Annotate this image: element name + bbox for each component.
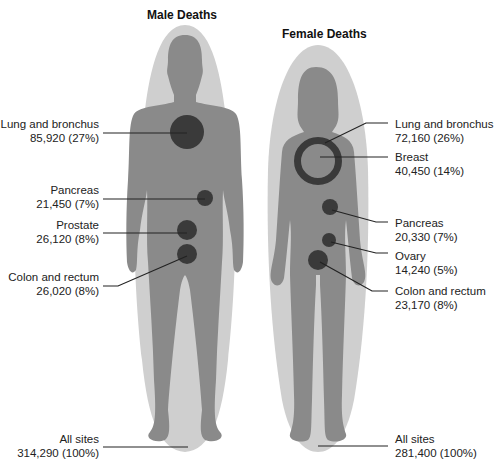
female-label-lung: Lung and bronchus 72,160 (26%): [395, 117, 493, 145]
site-value: 85,920 (27%): [1, 131, 99, 145]
female-label-pancreas: Pancreas 20,330 (7%): [395, 216, 458, 244]
site-name: Breast: [395, 150, 464, 164]
female-label-all-sites: All sites 281,400 (100%): [395, 432, 477, 459]
site-value: 314,290 (100%): [17, 446, 99, 459]
site-name: Colon and rectum: [395, 284, 486, 298]
site-value: 40,450 (14%): [395, 164, 464, 178]
male-lung-organ: [170, 115, 204, 149]
site-value: 26,020 (8%): [8, 284, 99, 298]
male-colon-organ: [177, 244, 197, 264]
female-deaths-title: Female Deaths: [282, 27, 367, 41]
site-name: Pancreas: [395, 216, 458, 230]
female-label-colon: Colon and rectum 23,170 (8%): [395, 284, 486, 312]
male-figure: [103, 25, 244, 452]
male-prostate-organ: [177, 220, 197, 240]
male-label-colon: Colon and rectum 26,020 (8%): [8, 270, 99, 298]
site-name: All sites: [395, 432, 477, 446]
site-value: 14,240 (5%): [395, 263, 458, 277]
site-name: Prostate: [36, 218, 99, 232]
female-ovary-organ: [322, 233, 336, 247]
male-label-lung: Lung and bronchus 85,920 (27%): [1, 117, 99, 145]
site-name: Lung and bronchus: [395, 117, 493, 131]
site-value: 281,400 (100%): [395, 446, 477, 459]
site-name: Lung and bronchus: [1, 117, 99, 131]
female-label-breast: Breast 40,450 (14%): [395, 150, 464, 178]
male-deaths-title: Male Deaths: [147, 8, 217, 22]
male-label-prostate: Prostate 26,120 (8%): [36, 218, 99, 246]
male-label-pancreas: Pancreas 21,450 (7%): [36, 183, 99, 211]
site-name: Ovary: [395, 249, 458, 263]
male-label-all-sites: All sites 314,290 (100%): [17, 432, 99, 459]
site-value: 23,170 (8%): [395, 298, 486, 312]
site-value: 26,120 (8%): [36, 232, 99, 246]
female-colon-organ: [308, 250, 328, 270]
site-name: Pancreas: [36, 183, 99, 197]
female-pancreas-organ: [322, 199, 338, 215]
site-name: All sites: [17, 432, 99, 446]
male-pancreas-organ: [197, 190, 213, 206]
site-name: Colon and rectum: [8, 270, 99, 284]
site-value: 20,330 (7%): [395, 230, 458, 244]
female-figure: [268, 45, 388, 452]
female-label-ovary: Ovary 14,240 (5%): [395, 249, 458, 277]
site-value: 72,160 (26%): [395, 131, 493, 145]
site-value: 21,450 (7%): [36, 197, 99, 211]
